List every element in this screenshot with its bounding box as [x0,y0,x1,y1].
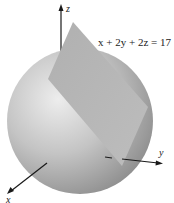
plane-equation-label: x + 2y + 2z = 17 [98,36,171,48]
z-arrow-icon [59,4,64,11]
y-arrow-icon [156,161,164,166]
z-axis-label: z [65,3,70,14]
x-arrow-icon [7,187,14,194]
y-axis-label: y [158,147,164,158]
x-axis-label: x [5,194,11,203]
diagram-canvas: z y x x + 2y + 2z = 17 [0,0,174,203]
